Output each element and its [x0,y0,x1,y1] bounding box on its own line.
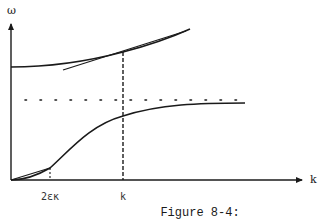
small-k-chord [11,168,50,180]
dispersion-diagram: ω k 2εκ k Figure 8-4: [0,0,319,220]
upper-curve [11,29,190,67]
tick-label-2ek: 2εκ [41,191,59,202]
x-axis-label: k [310,173,317,186]
figure-caption: Figure 8-4: [160,206,239,220]
tick-label-k: k [120,191,126,202]
y-axis-label: ω [7,4,16,17]
tangent-line [63,31,186,70]
lower-curve [11,103,245,180]
